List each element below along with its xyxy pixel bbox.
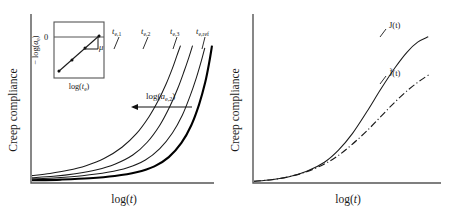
inset-zero-tick-label: 0 [44, 33, 48, 42]
curve-label-teref: te,ref [196, 26, 209, 37]
curve-label-te3: te,3 [170, 26, 179, 37]
inset-ylabel: − log(ae) [31, 35, 41, 64]
left-panel: te,1 te,2 te,3 te,ref log(ae,2) 0 [7, 14, 214, 206]
right-label-leaders [380, 29, 386, 84]
right-ylabel: Creep compliance [229, 68, 242, 151]
left-xlabel: log(t) [111, 193, 137, 206]
figure-svg: te,1 te,2 te,3 te,ref log(ae,2) 0 [0, 0, 453, 213]
right-panel-axes [253, 14, 441, 183]
right-panel: J(t) J̃(t) log(t) Creep compliance [229, 14, 441, 206]
inset-data-point [71, 59, 74, 62]
inset-slope-symbol: μ [98, 42, 104, 52]
shift-annotation-label: log(ae,2) [146, 91, 175, 102]
curve-label-leaders [114, 37, 205, 49]
aging-shift-factor-inset: 0 μ log(te) − log(ae) [31, 22, 104, 92]
curve-J-tilde [254, 74, 430, 181]
inset-data-point [58, 70, 61, 73]
curve-label-te1: te,1 [112, 26, 121, 37]
curve-label-J: J(t) [389, 20, 401, 30]
creep-compliance-figure: te,1 te,2 te,3 te,ref log(ae,2) 0 [0, 0, 453, 213]
curve-J [254, 37, 428, 181]
right-xlabel: log(t) [335, 193, 361, 206]
curve-label-te2: te,2 [141, 26, 150, 37]
inset-xlabel: log(te) [69, 82, 90, 92]
curve-label-J-tilde: J̃(t) [389, 68, 401, 78]
left-ylabel: Creep compliance [7, 68, 20, 151]
shift-arrow-annotation: log(ae,2) [131, 91, 192, 110]
arrow-head-icon [131, 104, 138, 110]
